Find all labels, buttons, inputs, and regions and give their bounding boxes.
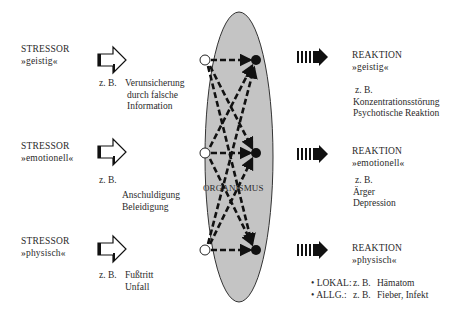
stressor-emotionell-label: STRESSOR »emotionell« xyxy=(21,141,74,164)
stressor-physisch-label: STRESSOR »physisch« xyxy=(21,236,70,259)
stressor-emotionell-zb: z. B. xyxy=(99,175,117,187)
stressor-geistig-examples: Verunsicherung durch falsche Information xyxy=(125,78,185,113)
reaction-emotionell-label: REAKTION »emotionell« xyxy=(352,146,405,169)
reaction-emotionell-examples: z. B. Ärger Depression xyxy=(355,175,396,210)
stressor-geistig-label: STRESSOR »geistig« xyxy=(21,44,70,67)
stress-diagram: STRESSOR »geistig« z. B. Verunsicherung … xyxy=(0,0,456,321)
reaction-physisch-bullets: • LOKAL:z. B.Hämatom • ALLG.:z. B.Fieber… xyxy=(311,278,428,301)
reaction-geistig-label: REAKTION »geistig« xyxy=(352,50,402,73)
organism-label: ORGANISMUS xyxy=(203,183,264,195)
reaction-arrows xyxy=(297,48,328,259)
stressor-geistig-zb: z. B. xyxy=(99,78,117,90)
reaction-geistig-examples: z. B. Konzentrationsstörung Psychotische… xyxy=(355,85,440,120)
reaction-physisch-label: REAKTION »physisch« xyxy=(352,243,402,266)
stressor-physisch-zb: z. B. xyxy=(99,270,117,282)
bullet-lokal: • LOKAL:z. B.Hämatom xyxy=(311,278,428,290)
organism-ellipse xyxy=(205,12,273,302)
bullet-allg: • ALLG.:z. B.Fieber, Infekt xyxy=(311,290,428,302)
stressor-emotionell-examples: Anschuldigung Beleidigung xyxy=(122,190,180,213)
stressor-physisch-examples: Fußtritt Unfall xyxy=(125,270,154,293)
